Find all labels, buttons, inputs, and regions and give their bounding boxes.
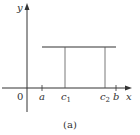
- tick-label-a: a: [39, 91, 45, 102]
- x-axis-label: x: [126, 91, 132, 102]
- y-axis-label: y: [16, 2, 23, 13]
- x-axis-arrow-icon: [125, 86, 132, 91]
- y-axis: [25, 3, 30, 112]
- figure-caption: (a): [63, 119, 77, 130]
- tick-label-c1: c1: [61, 91, 71, 104]
- tick-label-c2: c2: [100, 91, 110, 104]
- origin-label: 0: [17, 91, 23, 102]
- x-axis: [2, 86, 132, 91]
- y-axis-arrow-icon: [25, 3, 30, 10]
- constant-function-diagram: y x 0 a c1 c2 b (a): [0, 0, 140, 135]
- tick-label-b: b: [113, 91, 119, 102]
